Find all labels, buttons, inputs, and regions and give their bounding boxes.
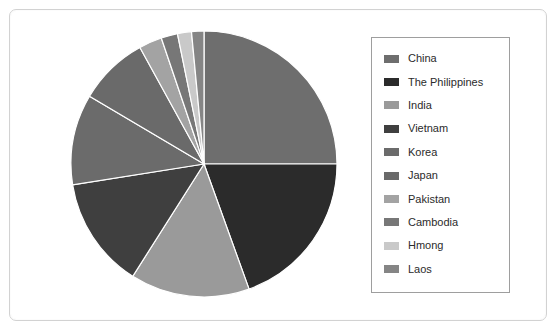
legend-swatch-vietnam — [384, 125, 399, 133]
legend-label-laos: Laos — [408, 264, 432, 275]
legend-label-the-philippines: The Philippines — [408, 77, 483, 88]
legend-swatch-hmong — [384, 242, 399, 250]
legend-swatch-japan — [384, 172, 399, 180]
legend-label-japan: Japan — [408, 170, 438, 181]
legend-item-india[interactable]: India — [372, 94, 509, 117]
legend-item-hmong[interactable]: Hmong — [372, 234, 509, 257]
pie-slice — [204, 31, 337, 164]
pie-chart — [70, 30, 338, 298]
pie-chart-svg — [70, 30, 338, 298]
legend-label-hmong: Hmong — [408, 240, 443, 251]
legend-item-laos[interactable]: Laos — [372, 258, 509, 281]
legend-label-china: China — [408, 53, 437, 64]
legend-item-the-philippines[interactable]: The Philippines — [372, 70, 509, 93]
legend-swatch-the-philippines — [384, 78, 399, 86]
legend-swatch-pakistan — [384, 195, 399, 203]
legend-swatch-laos — [384, 265, 399, 273]
legend-label-cambodia: Cambodia — [408, 217, 458, 228]
legend-swatch-korea — [384, 148, 399, 156]
legend-swatch-cambodia — [384, 218, 399, 226]
legend-item-pakistan[interactable]: Pakistan — [372, 187, 509, 210]
legend-item-china[interactable]: China — [372, 47, 509, 70]
chart-page: China The Philippines India Vietnam Kore… — [0, 0, 560, 333]
legend-item-korea[interactable]: Korea — [372, 141, 509, 164]
chart-legend: China The Philippines India Vietnam Kore… — [371, 37, 510, 293]
pie-slice-group — [71, 31, 337, 297]
legend-item-vietnam[interactable]: Vietnam — [372, 117, 509, 140]
legend-label-korea: Korea — [408, 147, 437, 158]
legend-label-vietnam: Vietnam — [408, 123, 448, 134]
legend-label-pakistan: Pakistan — [408, 194, 450, 205]
legend-swatch-india — [384, 101, 399, 109]
legend-label-india: India — [408, 100, 432, 111]
legend-item-japan[interactable]: Japan — [372, 164, 509, 187]
legend-item-cambodia[interactable]: Cambodia — [372, 211, 509, 234]
legend-swatch-china — [384, 55, 399, 63]
